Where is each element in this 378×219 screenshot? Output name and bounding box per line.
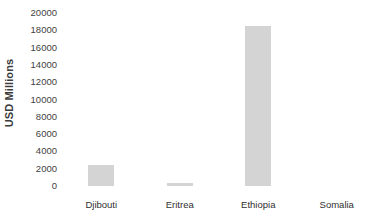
plot-area (62, 13, 376, 186)
x-tick-label-somalia: Somalia (320, 198, 354, 212)
y-tick-label: 12000 (17, 77, 57, 87)
y-tick-label: 16000 (17, 43, 57, 53)
y-tick-label: 0 (17, 181, 57, 191)
bar-slot (298, 13, 377, 186)
bar-slot (62, 13, 141, 186)
y-tick-label: 20000 (17, 8, 57, 18)
y-tick-label: 6000 (17, 129, 57, 139)
y-tick-label: 14000 (17, 60, 57, 70)
bar-eritrea[interactable] (167, 183, 193, 186)
y-tick-label: 18000 (17, 26, 57, 36)
y-tick-label: 2000 (17, 164, 57, 174)
y-axis-title-text: USD Millions (3, 59, 15, 127)
bar-chart-figure: USD Millions 200001800016000140001200010… (0, 0, 378, 219)
y-tick-label: 8000 (17, 112, 57, 122)
y-tick-label: 10000 (17, 95, 57, 105)
x-tick-label-ethiopia: Ethiopia (241, 198, 275, 212)
bar-slot (141, 13, 220, 186)
bar-slot (219, 13, 298, 186)
x-tick-label-eritrea: Eritrea (166, 198, 194, 212)
y-axis-tick-labels: 2000018000160001400012000100008000600040… (18, 0, 60, 193)
x-tick-label-djibouti: Djibouti (85, 198, 117, 212)
y-tick-label: 4000 (17, 147, 57, 157)
y-axis-title: USD Millions (0, 0, 18, 186)
bar-djibouti[interactable] (88, 165, 114, 186)
bar-ethiopia[interactable] (245, 26, 271, 186)
x-axis-tick-labels: DjiboutiEritreaEthiopiaSomalia (62, 198, 376, 214)
